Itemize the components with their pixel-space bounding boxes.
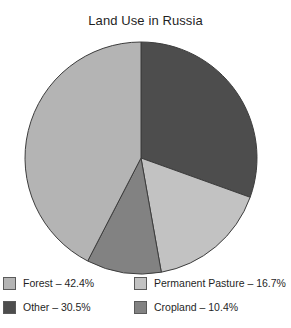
legend-item-other[interactable]: Other – 30.5% xyxy=(0,296,131,318)
legend: Forest – 42.4% Permanent Pasture – 16.7%… xyxy=(0,272,291,328)
legend-label-other: Other – 30.5% xyxy=(23,301,91,314)
legend-label-cropland: Cropland – 10.4% xyxy=(154,301,238,314)
legend-item-cropland[interactable]: Cropland – 10.4% xyxy=(131,296,291,318)
legend-swatch-permanent-pasture xyxy=(134,277,147,290)
legend-swatch-other xyxy=(3,301,16,314)
pie-chart-svg xyxy=(0,0,291,280)
legend-swatch-forest xyxy=(3,277,16,290)
legend-swatch-cropland xyxy=(134,301,147,314)
legend-item-forest[interactable]: Forest – 42.4% xyxy=(0,272,131,294)
pie-slice-group xyxy=(25,42,257,274)
legend-item-permanent-pasture[interactable]: Permanent Pasture – 16.7% xyxy=(131,272,291,294)
pie-chart xyxy=(0,0,291,280)
legend-label-forest: Forest – 42.4% xyxy=(23,277,94,290)
legend-label-permanent-pasture: Permanent Pasture – 16.7% xyxy=(154,277,286,290)
